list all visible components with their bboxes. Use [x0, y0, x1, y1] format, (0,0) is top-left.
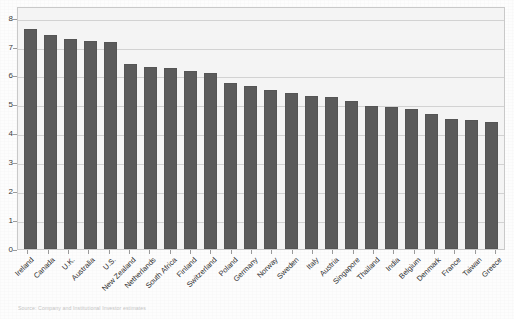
x-axis-tick-mark — [251, 250, 252, 254]
bar — [204, 73, 217, 249]
bar — [184, 71, 197, 249]
bar — [164, 68, 177, 249]
x-axis-tick-mark — [495, 250, 496, 254]
bar — [385, 107, 398, 249]
x-axis-tick-mark — [68, 250, 69, 254]
x-axis-tick-label: Italy — [305, 256, 320, 271]
x-axis-tick-label: U.K. — [61, 256, 77, 272]
x-axis-tick-mark — [190, 250, 191, 254]
x-axis-tick-mark — [48, 250, 49, 254]
x-axis-tick-mark — [434, 250, 435, 254]
bar — [485, 122, 498, 249]
x-axis-tick-label: Sweden — [275, 256, 299, 280]
bar — [124, 64, 137, 249]
x-axis-tick-mark — [393, 250, 394, 254]
bar — [405, 109, 418, 249]
bar — [224, 83, 237, 249]
x-axis-tick-label: U.S. — [101, 256, 117, 272]
x-axis-tick-mark — [271, 250, 272, 254]
bar — [244, 86, 257, 249]
x-axis-tick-mark — [373, 250, 374, 254]
bar — [264, 90, 277, 249]
x-axis-tick-mark — [88, 250, 89, 254]
bar — [104, 42, 117, 249]
bar — [64, 39, 77, 249]
bar-series — [18, 8, 504, 249]
x-axis-tick-mark — [353, 250, 354, 254]
x-axis-tick-mark — [312, 250, 313, 254]
x-axis-tick-label: India — [385, 256, 402, 273]
x-axis-labels: IrelandCanadaU.K.AustraliaU.S.New Zealan… — [17, 250, 505, 302]
source-caption: Source: Company and Institutional Invest… — [18, 305, 506, 311]
x-axis-tick-label: Greece — [480, 256, 503, 279]
bar — [465, 120, 478, 249]
bar — [345, 101, 358, 249]
y-axis: 012345678 — [0, 0, 17, 251]
x-axis-tick-mark — [454, 250, 455, 254]
bar — [44, 35, 57, 249]
bar — [425, 114, 438, 249]
bar — [144, 67, 157, 249]
x-axis-tick-mark — [414, 250, 415, 254]
bar — [365, 106, 378, 249]
x-axis-tick-label: Taiwan — [461, 256, 483, 278]
x-axis-tick-mark — [292, 250, 293, 254]
x-axis-tick-mark — [27, 250, 28, 254]
bar — [84, 41, 97, 249]
x-axis-tick-label: Canada — [32, 256, 56, 280]
bar — [445, 119, 458, 249]
x-axis-tick-mark — [129, 250, 130, 254]
x-axis-tick-mark — [170, 250, 171, 254]
x-axis-tick-mark — [109, 250, 110, 254]
x-axis-tick-mark — [475, 250, 476, 254]
bar — [305, 96, 318, 249]
x-axis-tick-mark — [210, 250, 211, 254]
x-axis-tick-mark — [149, 250, 150, 254]
chart-figure: 012345678 IrelandCanadaU.K.AustraliaU.S.… — [0, 0, 514, 319]
x-axis-tick-mark — [332, 250, 333, 254]
x-axis-tick-mark — [231, 250, 232, 254]
plot-area — [17, 7, 505, 250]
x-axis-tick-label: France — [441, 256, 463, 278]
bar — [325, 97, 338, 249]
bar — [24, 29, 37, 249]
bar — [285, 93, 298, 249]
